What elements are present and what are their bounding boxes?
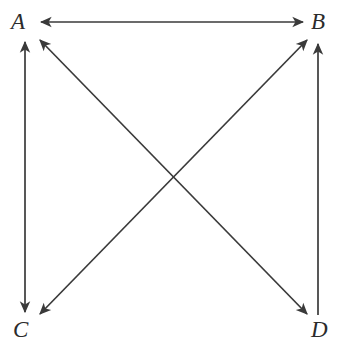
- node-label-b: B: [311, 10, 325, 33]
- node-label-c: C: [13, 318, 28, 341]
- node-label-d: D: [311, 318, 328, 341]
- node-label-a: A: [11, 10, 25, 33]
- graph-canvas: [0, 0, 347, 351]
- graph-diagram: A B C D: [0, 0, 347, 351]
